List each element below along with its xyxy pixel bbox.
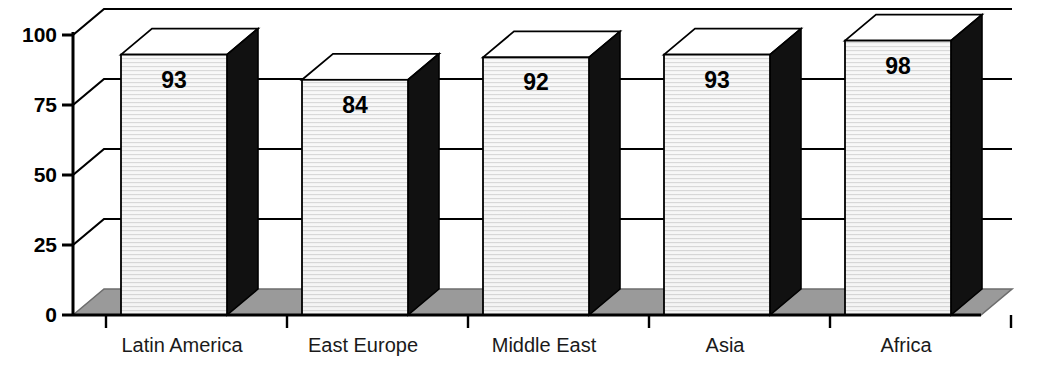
x-axis-category-label: East Europe <box>308 334 418 356</box>
y-axis-tick-label: 100 <box>22 23 57 46</box>
y-axis-tick-labels: 0255075100 <box>22 23 57 326</box>
x-axis-category-label: Africa <box>880 334 932 356</box>
x-axis-category-labels: Latin AmericaEast EuropeMiddle EastAsiaA… <box>121 334 932 356</box>
chart-canvas: 0255075100 Latin AmericaEast EuropeMiddl… <box>0 0 1039 378</box>
bars-group <box>121 15 982 315</box>
x-axis-category-label: Middle East <box>492 334 597 356</box>
y-axis-tick-label: 75 <box>34 93 58 116</box>
bar-chart-figure: 0255075100 Latin AmericaEast EuropeMiddl… <box>0 0 1039 378</box>
y-axis-tick-label: 25 <box>34 233 58 256</box>
x-axis-category-label: Latin America <box>121 334 243 356</box>
bar-value-label: 93 <box>161 67 187 93</box>
bar-value-label: 92 <box>523 69 549 95</box>
bar-value-label: 84 <box>342 92 368 118</box>
y-axis-tick-label: 50 <box>34 163 57 186</box>
bar-value-label: 93 <box>704 67 730 93</box>
bar-value-label: 98 <box>885 53 911 79</box>
y-axis-tick-label: 0 <box>45 303 57 326</box>
x-axis-category-label: Asia <box>706 334 746 356</box>
